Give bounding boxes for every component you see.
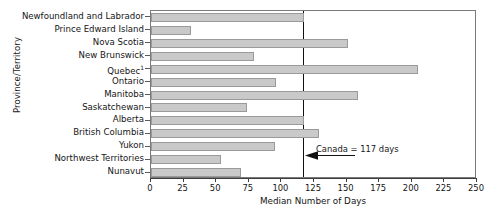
y-axis-tick (145, 42, 150, 43)
bar (151, 13, 304, 22)
y-axis-tick (145, 159, 150, 160)
y-axis-tick (145, 16, 150, 17)
x-axis-tick (346, 178, 347, 182)
bar (151, 116, 304, 125)
y-axis-label: Quebec1 (107, 62, 144, 75)
bar (151, 39, 348, 48)
y-axis-label: Manitoba (104, 88, 144, 101)
x-axis-tick (411, 178, 412, 182)
bar (151, 103, 247, 112)
x-axis-tick-label: 250 (456, 183, 494, 193)
y-axis-tick (145, 81, 150, 82)
y-axis-tick (145, 133, 150, 134)
x-axis-tick (443, 178, 444, 182)
y-axis-label: Prince Edward Island (55, 23, 144, 36)
x-axis-tick (215, 178, 216, 182)
bar (151, 168, 241, 177)
bar (151, 26, 191, 35)
y-axis-tick (145, 146, 150, 147)
bar (151, 91, 358, 100)
y-axis-label: New Brunswick (79, 49, 144, 62)
x-axis-tick (150, 178, 151, 182)
y-axis-label: Nova Scotia (93, 36, 144, 49)
bar (151, 52, 254, 61)
y-axis-label: Northwest Territories (54, 152, 144, 165)
y-axis-tick (145, 120, 150, 121)
x-axis-tick (476, 178, 477, 182)
x-axis-tick (248, 178, 249, 182)
x-axis-tick (313, 178, 314, 182)
y-axis-label: Alberta (113, 113, 144, 126)
y-axis-category-labels: Newfoundland and LabradorPrince Edward I… (0, 10, 148, 178)
y-axis-label: Ontario (112, 75, 144, 88)
x-axis-tick (280, 178, 281, 182)
bar (151, 78, 276, 87)
y-axis-label: British Columbia (73, 126, 144, 139)
x-axis-tick (183, 178, 184, 182)
bar (151, 65, 418, 74)
x-axis-tick (378, 178, 379, 182)
y-axis-tick (145, 68, 150, 69)
y-axis-label: Nunavut (108, 165, 145, 178)
y-axis-label: Newfoundland and Labrador (22, 10, 144, 23)
chart-figure: Province/Territory Newfoundland and Labr… (0, 0, 494, 217)
y-axis-tick (145, 29, 150, 30)
x-axis-title: Median Number of Days (150, 196, 476, 206)
bar (151, 129, 319, 138)
y-axis-tick (145, 94, 150, 95)
y-axis-tick (145, 107, 150, 108)
y-axis-tick (145, 172, 150, 173)
bar (151, 142, 275, 151)
y-axis-tick (145, 55, 150, 56)
bar (151, 155, 221, 164)
y-axis-label: Saskatchewan (82, 101, 144, 114)
y-axis-label: Yukon (119, 139, 144, 152)
canada-annotation-label: Canada = 117 days (316, 144, 399, 154)
